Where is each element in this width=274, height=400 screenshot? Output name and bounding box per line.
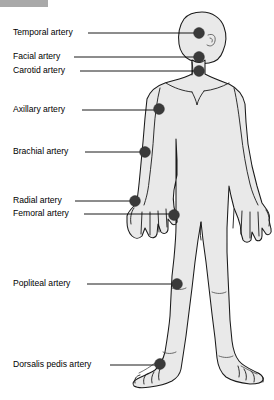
- hand-right-finger-4: [233, 209, 234, 228]
- pulse-dot-popliteal: [172, 279, 183, 290]
- pulse-dot-carotid: [194, 66, 205, 77]
- label-radial-artery: Radial artery: [13, 195, 62, 205]
- label-brachial-artery: Brachial artery: [13, 146, 69, 156]
- pulse-dot-brachial: [140, 147, 151, 158]
- crotch-notch: [200, 222, 201, 240]
- pulse-dot-radial: [130, 196, 141, 207]
- label-axillary-artery: Axillary artery: [13, 104, 66, 114]
- label-femoral-artery: Femoral artery: [13, 208, 70, 218]
- pulse-dot-facial: [194, 52, 205, 63]
- label-temporal-artery: Temporal artery: [13, 27, 73, 37]
- label-facial-artery: Facial artery: [13, 51, 61, 61]
- label-carotid-artery: Carotid artery: [13, 65, 66, 75]
- pulse-points-figure: Temporal artery Facial artery Carotid ar…: [0, 0, 274, 400]
- label-dorsalis-pedis-artery: Dorsalis pedis artery: [13, 359, 92, 369]
- pulse-dot-femoral: [169, 210, 180, 221]
- pulse-dot-axillary: [154, 104, 165, 115]
- anatomy-diagram: Temporal artery Facial artery Carotid ar…: [0, 0, 274, 400]
- labels-group: Temporal artery Facial artery Carotid ar…: [13, 27, 92, 369]
- pulse-dot-dorsalis-pedis: [155, 359, 166, 370]
- pulse-dot-temporal: [194, 28, 205, 39]
- label-popliteal-artery: Popliteal artery: [13, 278, 71, 288]
